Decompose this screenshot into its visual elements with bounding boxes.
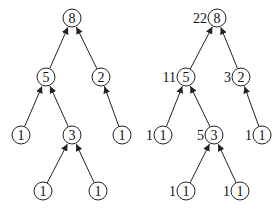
node-value: 5: [183, 70, 190, 85]
node-weight-label: 11: [163, 70, 176, 85]
node-value: 2: [98, 70, 105, 85]
edge-arrow: [166, 86, 182, 126]
edge-arrow: [190, 86, 210, 127]
edge-arrow: [244, 86, 259, 126]
tree-right-nodes: 822511231135111111: [146, 9, 271, 200]
edge-arrow: [50, 27, 68, 69]
node-value: 1: [237, 184, 244, 199]
tree-node: 1: [89, 182, 107, 200]
node-weight-label: 1: [223, 184, 230, 199]
node-value: 8: [214, 11, 221, 26]
edge-arrow: [76, 144, 94, 183]
edge-arrow: [190, 27, 212, 69]
node-value: 5: [43, 70, 50, 85]
edge-arrow: [50, 86, 68, 127]
tree-left: [25, 27, 119, 183]
edge-arrow: [104, 86, 119, 126]
node-value: 1: [160, 128, 167, 143]
node-value: 2: [238, 70, 245, 85]
node-weight-label: 3: [224, 70, 231, 85]
node-weight-label: 1: [169, 184, 176, 199]
nodes-layer: 85213111822511231135111111: [12, 9, 271, 200]
tree-node: 511: [163, 68, 195, 86]
edges-layer: [25, 27, 259, 183]
node-value: 3: [211, 128, 218, 143]
tree-node: 1: [113, 126, 131, 144]
tree-right: [166, 27, 259, 183]
tree-node: 11: [245, 126, 271, 144]
node-value: 1: [183, 184, 190, 199]
tree-node: 5: [37, 68, 55, 86]
node-weight-label: 5: [197, 128, 204, 143]
node-weight-label: 1: [245, 128, 252, 143]
edge-arrow: [218, 144, 236, 183]
edge-arrow: [76, 27, 97, 69]
node-value: 1: [119, 128, 126, 143]
tree-node: 3: [63, 126, 81, 144]
tree-node: 1: [34, 182, 52, 200]
node-weight-label: 1: [146, 128, 153, 143]
node-weight-label: 22: [193, 11, 207, 26]
edge-arrow: [47, 144, 67, 183]
tree-node: 11: [223, 182, 249, 200]
tree-node: 1: [12, 126, 30, 144]
edge-arrow: [221, 27, 238, 68]
node-value: 1: [259, 128, 266, 143]
tree-node: 11: [146, 126, 172, 144]
node-value: 1: [18, 128, 25, 143]
tree-node: 2: [92, 68, 110, 86]
node-value: 8: [69, 11, 76, 26]
tree-node: 822: [193, 9, 226, 27]
edge-arrow: [190, 144, 210, 183]
tree-node: 8: [63, 9, 81, 27]
node-value: 1: [95, 184, 102, 199]
tree-left-nodes: 85213111: [12, 9, 131, 200]
tree-node: 35: [197, 126, 223, 144]
tree-diagram: 85213111822511231135111111: [0, 0, 280, 212]
edge-arrow: [25, 86, 42, 127]
tree-node: 11: [169, 182, 195, 200]
node-value: 1: [40, 184, 47, 199]
tree-node: 23: [224, 68, 250, 86]
node-value: 3: [69, 128, 76, 143]
